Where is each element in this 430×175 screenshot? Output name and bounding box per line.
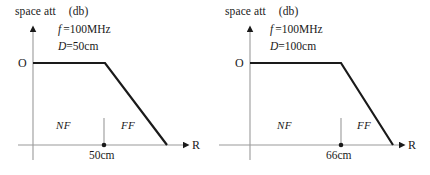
y-axis-label-text-left: space att [15, 5, 56, 17]
chart-panel-left: space att (db) f=100MHz D=50cm O NF FF 5… [0, 0, 215, 175]
param-distance-value-right: 100cm [285, 40, 316, 52]
zone-label-nf-left: NF [56, 120, 71, 131]
x-axis-label-right: R [408, 139, 416, 151]
param-distance-value-left: 50cm [73, 40, 99, 52]
y-axis-label-text-right: space att [225, 5, 266, 17]
origin-label-left: O [18, 57, 27, 69]
y-axis-label-right: space att (db) [225, 6, 298, 18]
param-frequency-value-left: 100MHz [70, 23, 111, 35]
y-axis-unit-right: (db) [279, 5, 299, 17]
param-frequency-symbol-left: f [58, 23, 61, 35]
x-axis-label-left: R [192, 139, 200, 151]
tick-label-left: 50cm [89, 150, 115, 162]
attenuation-curve-left [33, 63, 167, 145]
boundary-point-left [102, 143, 107, 148]
chart-panel-right: space att (db) f=100MHz D=100cm O NF FF … [215, 0, 430, 175]
y-axis-label-left: space att (db) [15, 6, 88, 18]
param-distance-left: D=50cm [58, 41, 98, 53]
y-axis-unit-left: (db) [69, 5, 89, 17]
param-distance-right: D=100cm [270, 41, 316, 53]
zone-label-ff-left: FF [121, 120, 135, 131]
param-frequency-symbol-right: f [270, 23, 273, 35]
zone-label-nf-right: NF [277, 120, 292, 131]
param-frequency-value-right: 100MHz [282, 23, 323, 35]
tick-label-right: 66cm [326, 150, 352, 162]
param-frequency-left: f=100MHz [58, 24, 111, 36]
attenuation-curve-right [250, 63, 393, 145]
boundary-point-right [339, 143, 344, 148]
zone-label-ff-right: FF [357, 120, 371, 131]
figure-container: space att (db) f=100MHz D=50cm O NF FF 5… [0, 0, 430, 175]
param-frequency-right: f=100MHz [270, 24, 323, 36]
origin-label-right: O [235, 57, 244, 69]
